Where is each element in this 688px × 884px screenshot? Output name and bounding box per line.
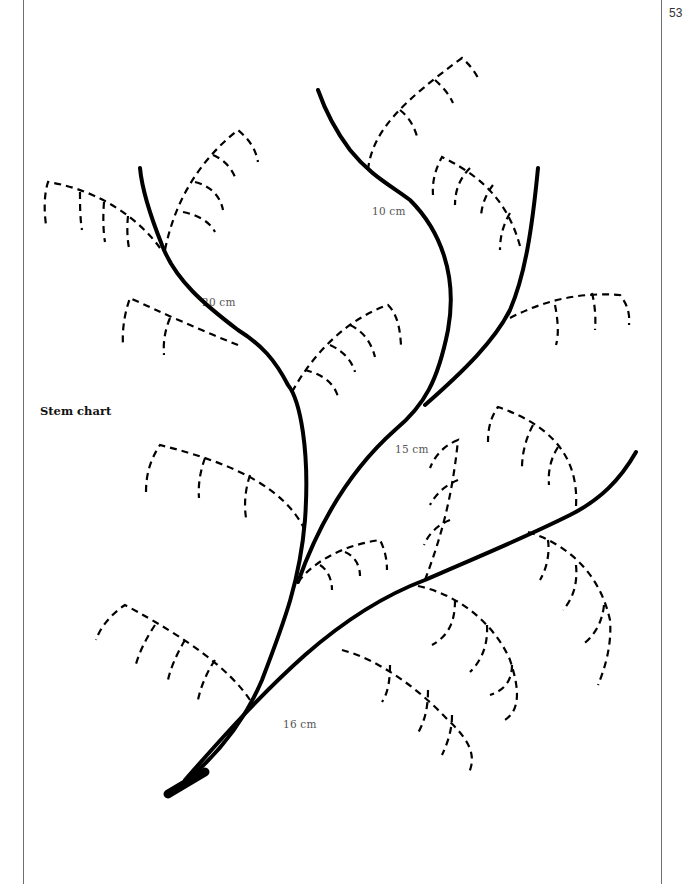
stems bbox=[140, 90, 636, 794]
stem-chart-illustration bbox=[0, 0, 688, 884]
lower-right-stem bbox=[185, 452, 636, 780]
right-upper-stem bbox=[425, 168, 538, 405]
dashed-leaves bbox=[45, 58, 630, 775]
middle-stem bbox=[298, 90, 451, 582]
main-stem-left bbox=[140, 168, 306, 792]
